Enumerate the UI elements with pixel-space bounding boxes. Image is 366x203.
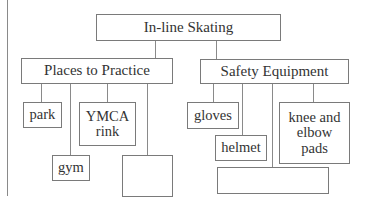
safety-label: Safety Equipment	[221, 64, 329, 80]
node-places-to-practice: Places to Practice	[21, 58, 173, 84]
helmet-label: helmet	[221, 140, 260, 155]
node-knee-elbow-pads: knee and elbow pads	[279, 102, 350, 164]
root-label: In-line Skating	[144, 20, 234, 36]
node-safety-equipment: Safety Equipment	[200, 59, 349, 84]
ymca-label-line2: rink	[96, 124, 119, 139]
gym-label: gym	[58, 160, 84, 175]
connector-places-to-park	[41, 84, 42, 102]
knee-label-line3: pads	[301, 141, 328, 156]
connector-places-to-gym	[70, 84, 71, 155]
connector-safety-to-helmet	[242, 84, 243, 135]
node-gym: gym	[52, 155, 90, 181]
ymca-label-line1: YMCA	[86, 109, 130, 124]
node-gloves: gloves	[187, 102, 239, 129]
connector-places-to-blank	[147, 84, 148, 155]
park-label: park	[30, 107, 56, 122]
connector-safety-to-knee-pads	[313, 84, 314, 102]
connector-safety-to-blank	[272, 84, 273, 167]
node-helmet: helmet	[215, 135, 267, 161]
connector-root-to-safety	[216, 41, 217, 59]
left-margin-rule	[7, 0, 8, 196]
root-node-in-line-skating: In-line Skating	[96, 14, 281, 41]
places-label: Places to Practice	[44, 63, 150, 79]
connector-root-to-places	[155, 41, 156, 58]
node-park: park	[23, 102, 62, 128]
knee-label-line1: knee and	[289, 110, 341, 125]
gloves-label: gloves	[194, 108, 232, 123]
node-ymca-rink: YMCA rink	[79, 102, 136, 146]
connector-places-to-ymca	[107, 84, 108, 102]
node-safety-blank	[217, 167, 329, 194]
node-places-blank	[122, 155, 173, 197]
connector-safety-to-gloves	[213, 84, 214, 102]
knee-label-line2: elbow	[297, 125, 332, 140]
